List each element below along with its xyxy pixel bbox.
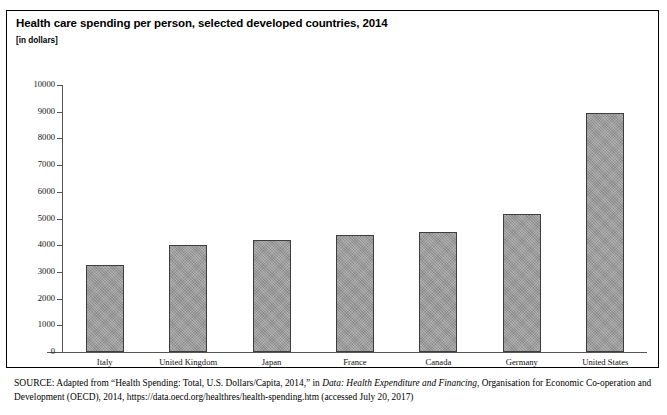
y-axis-tick [57, 245, 63, 246]
y-axis-tick [57, 138, 63, 139]
bar-italy [86, 265, 124, 352]
source-italic-title: Data: Health Expenditure and Financing [322, 378, 477, 388]
y-axis-tick-text: 9000 [9, 107, 55, 116]
y-axis-tick-label: 7000 [7, 160, 55, 170]
y-axis-tick-label: 4000 [7, 240, 55, 250]
figure-frame: Health care spending per person, selecte… [6, 10, 659, 368]
y-axis-tick [57, 299, 63, 300]
y-axis-tick-label: 2000 [7, 294, 55, 304]
y-axis-tick-label: 1000 [7, 320, 55, 330]
y-axis-tick [57, 219, 63, 220]
y-axis-tick [57, 85, 63, 86]
y-axis-tick [57, 192, 63, 193]
y-axis-tick-label: 5000 [7, 214, 55, 224]
y-axis-tick-label: 0 [7, 347, 55, 357]
bar-chart-plot: 0100020003000400050006000700080009000100… [7, 11, 660, 369]
y-axis-tick [57, 272, 63, 273]
bars-layer [7, 11, 660, 369]
y-axis-tick-label: 6000 [7, 187, 55, 197]
y-axis-tick [57, 325, 63, 326]
y-axis-tick-label: 9000 [7, 107, 55, 117]
y-axis-tick-label: 10000 [7, 80, 55, 90]
bar-france [336, 235, 374, 352]
y-axis-tick-text: 7000 [9, 160, 55, 169]
y-axis-tick-text: 3000 [9, 267, 55, 276]
bar-germany [503, 214, 541, 352]
bar-japan [253, 240, 291, 352]
y-axis-tick-text: 1000 [9, 320, 55, 329]
y-axis-tick-text: 4000 [9, 240, 55, 249]
bar-canada [419, 232, 457, 352]
y-axis-tick [57, 352, 63, 353]
y-axis-tick-text: 5000 [9, 214, 55, 223]
y-axis-tick-label: 3000 [7, 267, 55, 277]
y-axis-tick [57, 165, 63, 166]
y-axis-tick [57, 112, 63, 113]
source-label: SOURCE: [14, 377, 55, 388]
x-axis-label-united-states: United States [550, 357, 660, 367]
y-axis-tick-text: 8000 [9, 133, 55, 142]
bar-united-states [586, 113, 624, 352]
y-axis-tick-text: 2000 [9, 294, 55, 303]
y-axis-tick-text: 6000 [9, 187, 55, 196]
source-text-before: Adapted from “Health Spending: Total, U.… [55, 378, 323, 388]
source-note: SOURCE: Adapted from “Health Spending: T… [14, 376, 654, 404]
y-axis-tick-label: 8000 [7, 133, 55, 143]
figure-page: Health care spending per person, selecte… [0, 0, 667, 415]
y-axis-tick-text: 0 [9, 347, 55, 356]
bar-united-kingdom [169, 245, 207, 352]
y-axis-tick-text: 10000 [9, 80, 55, 89]
